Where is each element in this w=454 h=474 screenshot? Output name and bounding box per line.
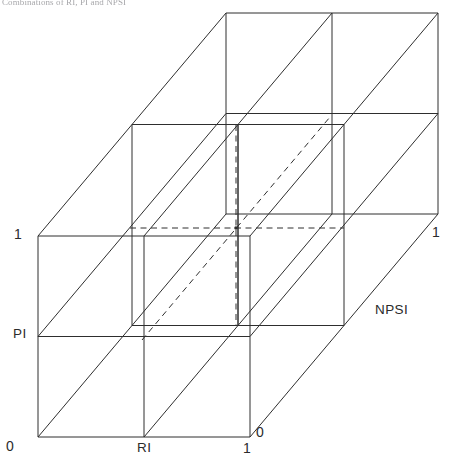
tick-z-origin: 0 [256,424,264,440]
octant-cube [132,125,238,326]
cube-diagram-svg [0,0,454,474]
hidden-interior-edges [130,117,344,340]
axis-label-ri: RI [137,440,151,455]
tick-x-max: 1 [243,440,251,456]
axis-label-pi: PI [13,326,27,341]
tick-origin: 0 [6,438,14,454]
tick-y-max: 1 [14,226,22,242]
tick-z-max: 1 [432,224,440,240]
back-face-subdivision [226,13,438,214]
axis-label-npsi: NPSI [375,302,408,317]
front-face-subdivision [38,236,250,437]
figure-root: Combinations of RI, PI and NPSI [0,0,454,474]
